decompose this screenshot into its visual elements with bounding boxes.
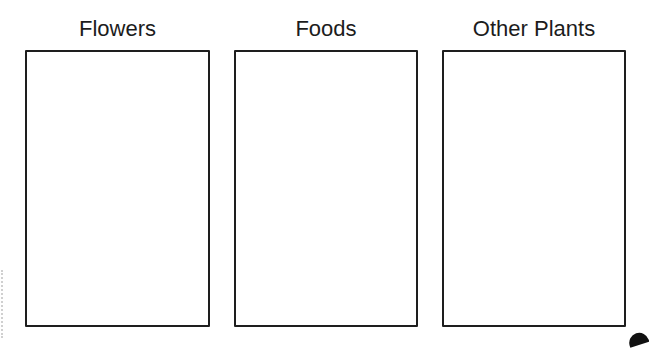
column-title-foods: Foods xyxy=(234,16,418,42)
sorting-box-flowers xyxy=(25,50,210,327)
column-title-other-plants: Other Plants xyxy=(442,16,626,42)
page-corner-mark xyxy=(627,330,649,348)
margin-copyright-text xyxy=(1,270,9,338)
column-title-flowers: Flowers xyxy=(25,16,210,42)
sorting-box-foods xyxy=(234,50,418,327)
sorting-box-other-plants xyxy=(442,50,626,327)
